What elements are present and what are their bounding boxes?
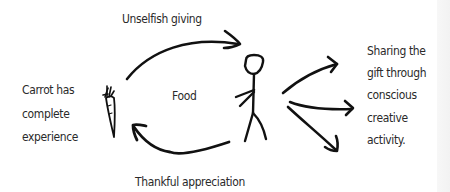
right-text-line: activity. bbox=[367, 134, 426, 156]
arrow-right-icon bbox=[290, 101, 353, 115]
right-text-line: Sharing the bbox=[367, 45, 426, 67]
right-text-block: Sharing the gift through conscious creat… bbox=[367, 45, 436, 156]
right-text-line: creative bbox=[367, 112, 426, 134]
diagram-canvas: Unselfish giving Food Thankful appreciat… bbox=[0, 0, 450, 192]
carrot-icon bbox=[103, 86, 115, 137]
center-label: Food bbox=[172, 90, 196, 103]
left-text-block: Carrot has complete experience bbox=[22, 84, 87, 155]
left-text-line: experience bbox=[22, 131, 78, 155]
right-text-line: gift through bbox=[367, 67, 426, 89]
curved-arrow-right-icon bbox=[127, 31, 240, 79]
right-text-line: conscious bbox=[367, 89, 426, 111]
left-text-line: complete bbox=[22, 108, 78, 132]
arrow-up-right-icon bbox=[283, 57, 337, 93]
bottom-arrow-label: Thankful appreciation bbox=[135, 176, 245, 189]
top-arrow-label: Unselfish giving bbox=[122, 13, 202, 26]
curved-arrow-left-icon bbox=[133, 125, 229, 154]
stick-figure-icon bbox=[236, 55, 266, 141]
arrow-down-right-icon bbox=[288, 107, 338, 151]
left-text-line: Carrot has bbox=[22, 84, 78, 108]
